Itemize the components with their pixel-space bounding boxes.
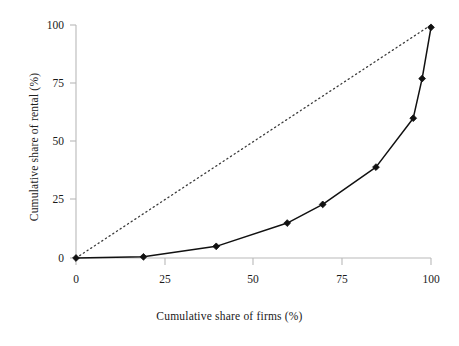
x-tick-label: 25 [159,273,171,285]
line-of-equality-series [76,25,431,258]
x-tick-label: 0 [73,273,79,285]
y-tick-label: 50 [53,135,65,147]
y-tick-label: 75 [53,77,65,89]
y-tick-label: 100 [47,19,65,31]
data-point-marker [419,75,426,82]
y-axis-tick-labels: 100 75 50 25 0 [47,19,65,264]
x-tick-label: 100 [422,273,440,285]
data-point-marker [140,253,147,260]
data-point-marker [73,255,80,262]
y-tick-label: 25 [53,193,65,205]
y-axis-ticks [70,25,76,258]
data-point-marker [428,24,435,31]
x-axis-ticks [76,258,431,265]
chart-plot-area: 100 75 50 25 0 0 25 50 75 100 [0,0,459,346]
x-tick-label: 50 [247,273,259,285]
x-tick-label: 75 [336,273,348,285]
y-axis-title: Cumulative share of rental (%) [28,27,40,267]
data-point-marker [284,220,291,227]
x-axis-tick-labels: 0 25 50 75 100 [73,273,440,285]
lorenz-curve-chart: 100 75 50 25 0 0 25 50 75 100 Cumulative… [0,0,459,346]
lorenz-curve-markers [73,24,435,261]
lorenz-curve-series [76,27,431,258]
x-axis-title: Cumulative share of firms (%) [0,310,459,322]
data-point-marker [213,243,220,250]
y-tick-label: 0 [58,252,64,264]
